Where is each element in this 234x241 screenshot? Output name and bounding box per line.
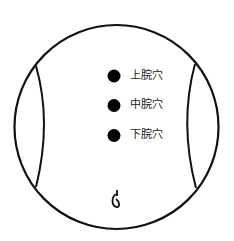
point-dot-lower	[108, 129, 121, 142]
left-flank-line	[36, 66, 44, 187]
abdomen-diagram	[0, 0, 234, 241]
right-flank-line	[187, 64, 196, 188]
navel-icon	[113, 190, 120, 207]
point-label-upper: 上脘穴	[130, 70, 163, 82]
point-label-lower: 下脘穴	[130, 129, 163, 141]
point-dot-middle	[108, 99, 121, 112]
point-dot-upper	[108, 70, 121, 83]
point-label-middle: 中脘穴	[130, 99, 163, 111]
